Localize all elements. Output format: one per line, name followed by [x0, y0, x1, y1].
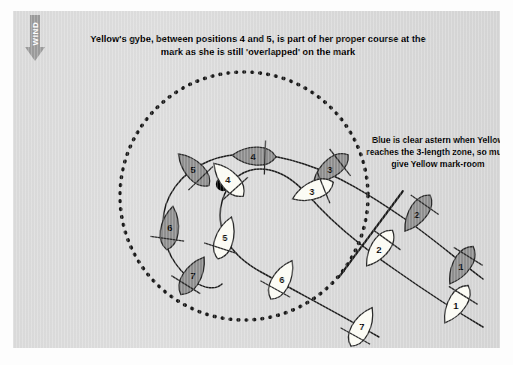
wind-label: WIND: [31, 15, 40, 53]
yellow-boat-group: 1 2 3 4: [201, 153, 484, 348]
yellow-boat-2: 2: [354, 221, 407, 277]
yellow-boat-7: 7: [335, 299, 386, 348]
diagram-annotation: Blue is clear astern when Yellow reaches…: [365, 134, 500, 171]
svg-text:2: 2: [414, 209, 419, 220]
blue-boat-1: 1: [436, 238, 488, 293]
blue-boat-7: 7: [166, 248, 218, 303]
diagram-panel: 1 2 3 4: [13, 11, 500, 348]
svg-text:6: 6: [167, 222, 172, 233]
yellow-boat-6: 6: [255, 252, 306, 307]
blue-boat-6: 6: [149, 204, 189, 252]
svg-text:2: 2: [376, 244, 381, 255]
sailing-diagram: 1 2 3 4: [13, 11, 500, 348]
svg-text:3: 3: [327, 164, 332, 175]
svg-text:7: 7: [359, 321, 364, 332]
wind-indicator: WIND: [25, 15, 45, 61]
svg-text:1: 1: [458, 261, 464, 272]
svg-text:7: 7: [190, 270, 195, 281]
svg-text:1: 1: [453, 300, 459, 311]
diagram-page: 1 2 3 4: [0, 0, 513, 365]
yellow-boat-5: 5: [201, 211, 247, 263]
yellow-boat-1: 1: [431, 277, 483, 332]
svg-text:6: 6: [279, 274, 284, 285]
svg-text:4: 4: [225, 174, 231, 185]
svg-text:5: 5: [190, 164, 196, 175]
svg-text:3: 3: [309, 186, 314, 197]
svg-text:4: 4: [250, 151, 256, 162]
diagram-title: Yellow's gybe, between positions 4 and 5…: [83, 33, 433, 59]
svg-text:5: 5: [222, 232, 228, 243]
